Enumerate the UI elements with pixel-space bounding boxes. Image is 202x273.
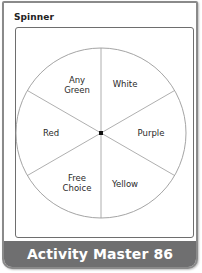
- spinner-wheel: Any Green White Purple Yellow Free Choic…: [0, 0, 202, 273]
- spinner-center-pin: [99, 131, 103, 135]
- segment-label-free-choice-2: Choice: [63, 183, 92, 193]
- segment-label-yellow: Yellow: [111, 179, 138, 189]
- segment-label-white: White: [113, 79, 138, 89]
- segment-label-free-choice-1: Free: [68, 173, 86, 183]
- segment-label-any-green-1: Any: [69, 75, 85, 85]
- segment-label-red: Red: [43, 128, 59, 138]
- segment-label-purple: Purple: [138, 128, 165, 138]
- segment-label-any-green-2: Green: [64, 85, 90, 95]
